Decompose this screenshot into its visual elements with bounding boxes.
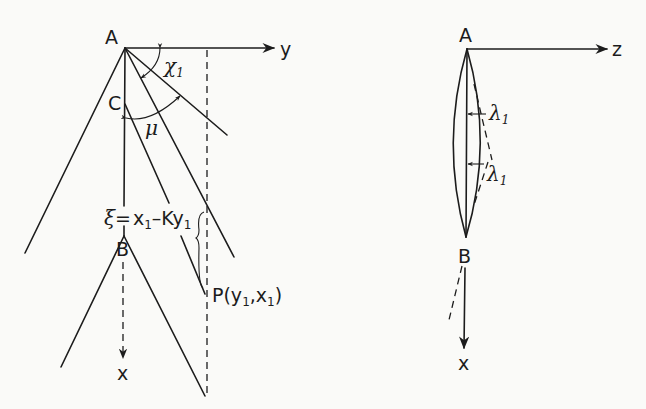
label-point-p: P(y1,x1) xyxy=(212,284,282,309)
b-cone-right xyxy=(124,236,205,396)
label-x-axis-right: x xyxy=(458,352,469,374)
center-axis-upper xyxy=(124,48,125,206)
x-axis-right xyxy=(464,268,465,348)
tangent-dashed-lower xyxy=(474,162,488,205)
lens-left-arc xyxy=(453,49,467,237)
tangent-dashed-below-b xyxy=(449,266,462,320)
label-a-right: A xyxy=(459,24,472,46)
label-b: B xyxy=(116,238,129,260)
label-c: C xyxy=(108,92,121,114)
label-z-axis: z xyxy=(612,38,622,60)
lens-center-axis xyxy=(466,49,467,237)
diagram-canvas: A y C χ1 μ ξ=x1–Ky1 B x P(y1,x1) A z λ1 … xyxy=(0,0,646,409)
label-b-right: B xyxy=(458,245,471,267)
label-lambda-lower: λ1 xyxy=(486,162,507,188)
label-xi-equation: ξ=x1–Ky1 xyxy=(104,206,191,232)
label-x-axis: x xyxy=(117,362,128,384)
label-chi: χ1 xyxy=(162,54,184,80)
b-cone-left xyxy=(61,236,124,367)
label-a: A xyxy=(105,26,118,48)
left-diagram: A y C χ1 μ ξ=x1–Ky1 B x P(y1,x1) xyxy=(25,26,291,396)
label-mu: μ xyxy=(145,116,158,140)
lens-right-arc xyxy=(466,49,480,237)
right-diagram: A z λ1 λ1 B x xyxy=(449,24,622,374)
label-lambda-upper: λ1 xyxy=(488,101,509,127)
chi-angle-arc xyxy=(141,48,160,78)
label-y-axis: y xyxy=(280,38,291,60)
